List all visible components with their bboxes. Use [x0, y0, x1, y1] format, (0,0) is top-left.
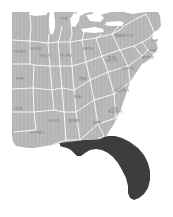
map-figure: 미시간 위스콘신 일리노이 인디애나 오하이오 펜실베이니아 뉴욕 뉴저지 웨스… — [0, 0, 173, 217]
map-graphic — [0, 0, 173, 217]
